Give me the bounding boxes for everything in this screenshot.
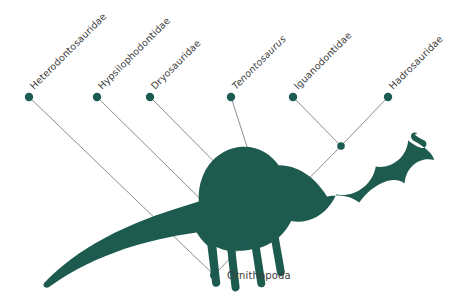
tip-node-dryosauridae[interactable] — [146, 93, 154, 101]
phylogenetic-tree: Heterodontosauridae Hypsilophodontidae D… — [0, 0, 471, 302]
tip-node-iguanodontidae[interactable] — [289, 93, 297, 101]
tip-node-group — [25, 93, 392, 101]
tip-label-group: Heterodontosauridae Hypsilophodontidae D… — [28, 11, 445, 92]
tip-label-heterodontosauridae: Heterodontosauridae — [28, 11, 109, 92]
root-node-ornithopoda[interactable] — [210, 271, 218, 279]
cladogram-figure: Heterodontosauridae Hypsilophodontidae D… — [0, 0, 471, 302]
branch-hadrosauridae — [341, 97, 388, 146]
root-label-ornithopoda: Ornithopoda — [227, 270, 291, 281]
tip-label-hadrosauridae: Hadrosauridae — [387, 33, 445, 91]
internal-node-hadrosauriformes[interactable] — [337, 142, 345, 150]
tip-node-hadrosauridae[interactable] — [384, 93, 392, 101]
tip-node-tenontosaurus[interactable] — [227, 93, 235, 101]
internal-node-iguanodontia[interactable] — [266, 214, 274, 222]
branch-iguanodontidae — [293, 97, 341, 146]
tip-label-iguanodontidae: Iguanodontidae — [292, 30, 354, 92]
tip-label-dryosauridae: Dryosauridae — [149, 37, 203, 91]
tip-node-heterodontosauridae[interactable] — [25, 93, 33, 101]
internal-node-euornithopoda[interactable] — [241, 239, 249, 247]
tip-label-tenontosaurus: Tenontosaurus — [230, 33, 288, 91]
tip-node-hypsilophodontidae[interactable] — [93, 93, 101, 101]
parasaurolophus-silhouette — [43, 132, 434, 291]
